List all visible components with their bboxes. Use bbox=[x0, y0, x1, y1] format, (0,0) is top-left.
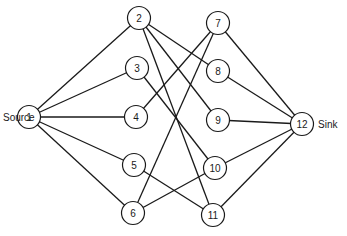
node-label: 3 bbox=[134, 63, 140, 74]
node-label: 8 bbox=[215, 66, 221, 77]
node-2: 2 bbox=[128, 7, 151, 30]
node-8: 8 bbox=[207, 60, 230, 83]
node-9: 9 bbox=[207, 109, 230, 132]
node-4: 4 bbox=[125, 106, 148, 129]
edge-7-12 bbox=[218, 23, 302, 124]
node-7: 7 bbox=[207, 12, 230, 35]
node-11: 11 bbox=[202, 204, 225, 227]
edge-2-8 bbox=[139, 18, 218, 71]
edges bbox=[29, 18, 302, 215]
edge-9-12 bbox=[218, 120, 302, 124]
node-5: 5 bbox=[123, 154, 146, 177]
node-6: 6 bbox=[122, 202, 145, 225]
node-label: 5 bbox=[131, 160, 137, 171]
source-label: Source bbox=[3, 112, 35, 123]
node-3: 3 bbox=[126, 57, 149, 80]
edge-1-6 bbox=[29, 117, 133, 213]
node-label: 12 bbox=[296, 119, 308, 130]
node-label: 10 bbox=[209, 163, 221, 174]
node-12: 12 bbox=[291, 113, 314, 136]
node-label: 11 bbox=[208, 210, 219, 221]
edge-8-12 bbox=[218, 71, 302, 124]
edge-5-11 bbox=[134, 165, 213, 215]
node-label: 6 bbox=[130, 208, 136, 219]
node-label: 4 bbox=[133, 112, 139, 123]
node-10: 10 bbox=[204, 157, 227, 180]
edge-10-12 bbox=[215, 124, 302, 168]
edge-1-5 bbox=[29, 117, 134, 165]
node-label: 9 bbox=[215, 115, 221, 126]
edge-1-2 bbox=[29, 18, 139, 117]
edge-1-3 bbox=[29, 68, 137, 117]
sink-label: Sink bbox=[318, 119, 338, 130]
edge-6-10 bbox=[133, 168, 215, 213]
node-label: 2 bbox=[136, 13, 142, 24]
network-diagram: 123456789101112 Source Sink bbox=[0, 0, 347, 236]
node-label: 7 bbox=[215, 18, 221, 29]
